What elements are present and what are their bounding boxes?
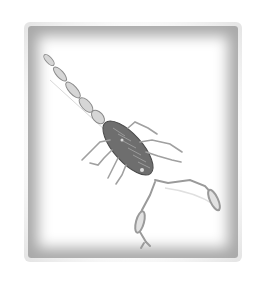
scorpion-illustration — [0, 0, 258, 282]
claw-shadow — [165, 188, 215, 205]
body-spot — [121, 139, 124, 142]
body-spot — [140, 168, 144, 172]
scorpion-body — [95, 113, 161, 182]
scorpion-tail — [42, 53, 107, 127]
